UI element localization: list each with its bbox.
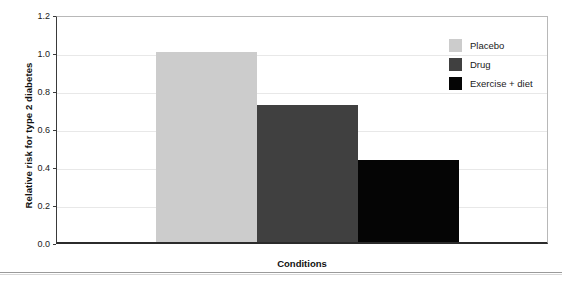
- y-tick-label: 0.0: [16, 239, 50, 249]
- legend-item-drug: Drug: [449, 55, 562, 74]
- legend: Placebo Drug Exercise + diet: [449, 36, 562, 93]
- bar-placebo: [156, 52, 257, 242]
- bar-chart-figure: Relative risk for type 2 diabetes 0.00.2…: [0, 0, 562, 286]
- legend-swatch-exercise-diet: [449, 77, 462, 90]
- plot-area: Placebo Drug Exercise + diet: [56, 16, 548, 244]
- legend-item-placebo: Placebo: [449, 36, 562, 55]
- bar-drug: [257, 105, 358, 242]
- legend-swatch-drug: [449, 58, 462, 71]
- x-axis-title: Conditions: [56, 258, 548, 269]
- y-tick-label: 1.2: [16, 11, 50, 21]
- legend-item-exercise-diet: Exercise + diet: [449, 74, 562, 93]
- footer-divider: [0, 272, 562, 273]
- y-axis-title: Relative risk for type 2 diabetes: [23, 36, 34, 236]
- legend-label-drug: Drug: [470, 59, 491, 70]
- legend-swatch-placebo: [449, 39, 462, 52]
- bar-exercise-diet: [358, 160, 459, 242]
- legend-label-exercise-diet: Exercise + diet: [470, 78, 533, 89]
- legend-label-placebo: Placebo: [470, 40, 504, 51]
- footer-divider-secondary: [0, 274, 562, 275]
- y-tick-mark: [53, 244, 56, 245]
